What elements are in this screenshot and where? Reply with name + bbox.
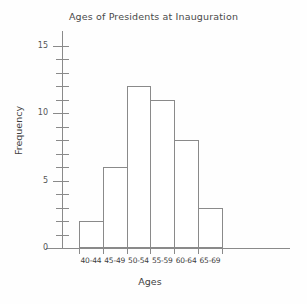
y-tick-label-5: 5	[32, 176, 48, 185]
y-tick-14	[56, 59, 69, 60]
x-tick-4	[174, 248, 175, 254]
y-tick-1	[56, 235, 69, 236]
y-tick-9	[56, 127, 69, 128]
x-tick-1	[103, 248, 104, 254]
y-tick-label-10: 10	[32, 108, 48, 117]
y-tick-8	[56, 140, 69, 141]
y-tick-10	[53, 113, 69, 114]
bar-55-59	[150, 100, 175, 249]
bar-50-54	[127, 86, 152, 248]
y-tick-12	[56, 86, 69, 87]
y-tick-11	[56, 100, 69, 101]
x-tick-label-65-69: 65-69	[195, 256, 225, 265]
y-tick-0	[53, 248, 69, 249]
bar-40-44	[79, 221, 104, 248]
y-tick-5	[53, 181, 69, 182]
y-tick-15	[53, 46, 69, 47]
x-tick-5	[198, 248, 199, 254]
x-axis-title: Ages	[50, 276, 250, 287]
histogram-figure: Ages of Presidents at Inauguration 05101…	[0, 0, 307, 304]
x-tick-3	[150, 248, 151, 254]
y-tick-label-0: 0	[32, 243, 48, 252]
x-tick-6	[222, 248, 223, 254]
y-tick-4	[56, 194, 69, 195]
x-axis-line	[46, 248, 290, 249]
y-tick-13	[56, 73, 69, 74]
y-axis-title: Frequency	[13, 91, 24, 171]
y-tick-2	[56, 221, 69, 222]
bar-45-49	[103, 167, 128, 248]
y-tick-7	[56, 154, 69, 155]
bar-65-69	[198, 208, 223, 249]
x-tick-0	[79, 248, 80, 254]
bar-60-64	[174, 140, 199, 248]
y-tick-3	[56, 208, 69, 209]
plot-area: 051015 40-4445-4950-5455-5960-6465-69	[0, 0, 307, 304]
y-tick-label-15: 15	[32, 41, 48, 50]
y-tick-6	[56, 167, 69, 168]
x-tick-2	[127, 248, 128, 254]
